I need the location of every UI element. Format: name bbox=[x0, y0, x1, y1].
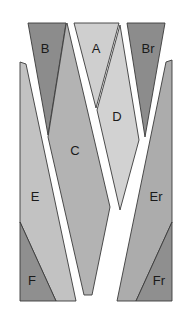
piece-label: E bbox=[31, 189, 40, 204]
piece-label: Fr bbox=[153, 273, 166, 288]
piece-label: F bbox=[28, 273, 36, 288]
piece-label: A bbox=[92, 41, 101, 56]
piece-label: Br bbox=[142, 41, 156, 56]
piece-label: Er bbox=[150, 189, 164, 204]
piece-label: B bbox=[41, 41, 50, 56]
piece-label: C bbox=[70, 143, 79, 158]
piece-label: D bbox=[112, 109, 121, 124]
tangram-diagram: BABrDCEFErFr bbox=[0, 0, 188, 312]
